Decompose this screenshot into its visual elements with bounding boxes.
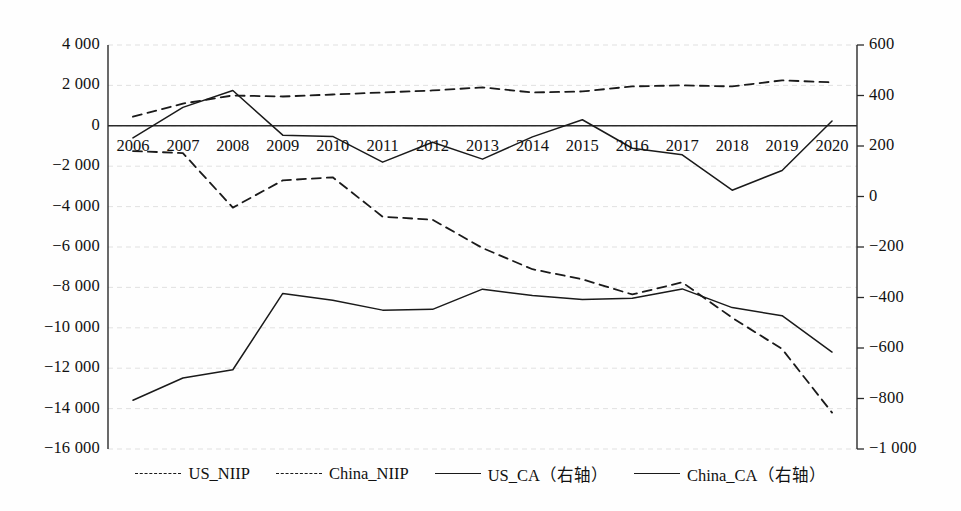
- series-line-0: [133, 151, 832, 413]
- right-axis-tick-label: 600: [869, 36, 961, 53]
- left-axis-tick-label: −4 000: [4, 198, 100, 215]
- right-axis-tick-label: 400: [869, 87, 961, 104]
- left-axis-tick-label: −12 000: [4, 359, 100, 376]
- left-axis-tick-label: −16 000: [4, 440, 100, 457]
- right-axis-tick-label: 200: [869, 137, 961, 154]
- legend-label: US_NIIP: [188, 464, 249, 484]
- data-series: [133, 80, 832, 412]
- left-axis-tick-label: 2 000: [4, 76, 100, 93]
- axis-ticks: [857, 45, 864, 449]
- legend-swatch-solid-line-icon: [435, 469, 481, 479]
- right-axis-tick-label: −600: [869, 339, 961, 356]
- legend-item[interactable]: China_NIIP: [276, 464, 409, 484]
- legend-item[interactable]: China_CA（右轴）: [634, 462, 826, 486]
- legend-item[interactable]: US_CA（右轴）: [435, 462, 608, 486]
- series-line-2: [133, 289, 832, 400]
- left-axis-tick-label: −8 000: [4, 278, 100, 295]
- right-axis-tick-label: −400: [869, 289, 961, 306]
- legend-label: China_CA（右轴）: [687, 462, 826, 486]
- legend-swatch-dashed-line-icon: [276, 469, 322, 479]
- left-axis-tick-label: 0: [4, 117, 100, 134]
- right-axis-tick-label: −1 000: [869, 440, 961, 457]
- chart-legend: US_NIIPChina_NIIPUS_CA（右轴）China_CA（右轴）: [0, 462, 961, 486]
- left-axis-tick-label: −6 000: [4, 238, 100, 255]
- x-axis-tick-label: 2020: [803, 138, 861, 155]
- legend-label: US_CA（右轴）: [488, 462, 608, 486]
- legend-swatch-solid-line-icon: [634, 469, 680, 479]
- right-axis-tick-label: −800: [869, 390, 961, 407]
- right-axis-tick-label: −200: [869, 238, 961, 255]
- gridlines: [108, 45, 857, 449]
- legend-item[interactable]: US_NIIP: [135, 464, 249, 484]
- left-axis-tick-label: −10 000: [4, 319, 100, 336]
- chart-canvas: [0, 0, 961, 511]
- left-axis-tick-label: −14 000: [4, 400, 100, 417]
- series-line-1: [133, 80, 832, 116]
- left-axis-tick-label: −2 000: [4, 157, 100, 174]
- left-axis-tick-label: 4 000: [4, 36, 100, 53]
- legend-swatch-dashed-line-icon: [135, 469, 181, 479]
- right-axis-tick-label: 0: [869, 188, 961, 205]
- legend-label: China_NIIP: [329, 464, 409, 484]
- chart-figure: 4 0002 0000−2 000−4 000−6 000−8 000−10 0…: [0, 0, 961, 511]
